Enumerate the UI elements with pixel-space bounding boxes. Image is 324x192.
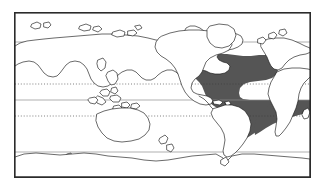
map-frame <box>14 12 311 178</box>
landmass-arctic-islands <box>31 22 137 37</box>
landmass-australia <box>96 108 150 142</box>
landmass-new-zealand <box>159 135 174 152</box>
landmass-antarctica <box>15 153 310 177</box>
world-map-canvas <box>14 12 311 178</box>
landmass-south-america <box>211 105 251 157</box>
distribution-map-figure <box>0 0 324 192</box>
